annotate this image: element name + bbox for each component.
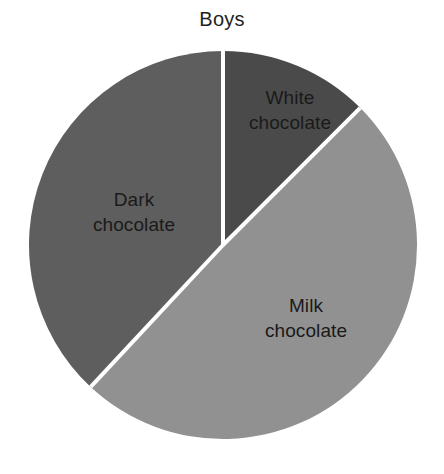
chart-canvas: Boys White chocolate Dark chocolate Milk…	[0, 0, 444, 474]
pie-chart-svg	[0, 0, 444, 474]
pie-chart	[0, 0, 444, 474]
